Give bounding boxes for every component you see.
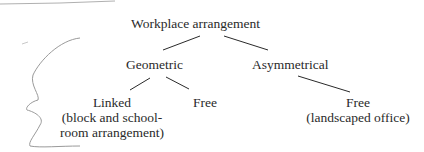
edge-root-asymmetrical [224,36,268,50]
node-free-asymmetrical-label: Free [302,95,414,110]
pencil-stroke-top [0,1,115,4]
edge-root-geometric [163,36,200,50]
node-linked-note-line-1: (block and school- [52,110,172,125]
pencil-mark [22,42,28,44]
node-asymmetrical-label: Asymmetrical [252,57,328,72]
edge-geometric-linked [130,78,150,90]
node-free-asymmetrical: Free (landscaped office) [302,95,414,125]
node-free-asymmetrical-note: (landscaped office) [302,110,414,125]
edge-geometric-free [166,77,189,89]
edge-asymmetrical-free [298,76,350,92]
node-free-geometric-label: Free [193,95,217,110]
root-node-label: Workplace arrangement [131,16,260,31]
node-linked: Linked (block and school- room arrangeme… [52,95,172,140]
node-linked-label: Linked [52,95,172,110]
node-linked-note-line-2: room arrangement) [52,125,172,140]
node-geometric-label: Geometric [126,57,183,72]
